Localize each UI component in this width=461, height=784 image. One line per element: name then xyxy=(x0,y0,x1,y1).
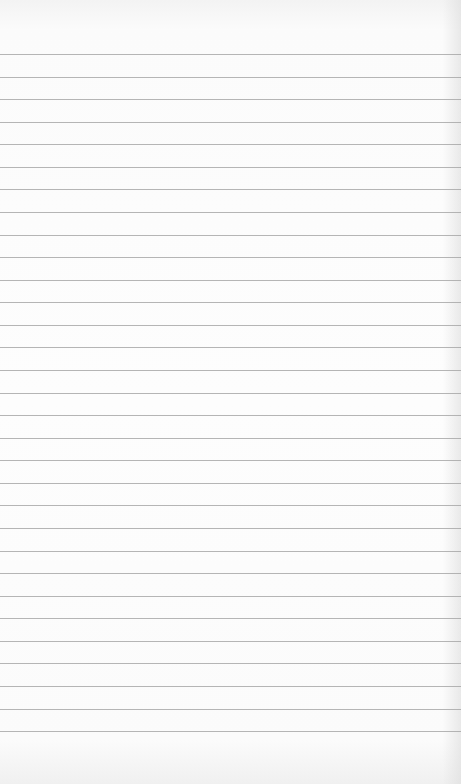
ruled-line xyxy=(0,347,461,348)
ruled-line xyxy=(0,528,461,529)
ruled-line xyxy=(0,99,461,100)
ruled-line xyxy=(0,302,461,303)
ruled-line xyxy=(0,393,461,394)
ruled-line xyxy=(0,212,461,213)
ruled-line xyxy=(0,731,461,732)
ruled-line xyxy=(0,167,461,168)
ruled-line xyxy=(0,641,461,642)
ruled-line xyxy=(0,505,461,506)
ruled-line xyxy=(0,663,461,664)
ruled-line xyxy=(0,144,461,145)
ruled-line xyxy=(0,483,461,484)
ruled-line xyxy=(0,460,461,461)
ruled-line xyxy=(0,54,461,55)
ruled-line xyxy=(0,686,461,687)
ruled-line xyxy=(0,257,461,258)
ruled-line xyxy=(0,122,461,123)
lined-paper-sheet xyxy=(0,0,461,784)
ruled-line xyxy=(0,709,461,710)
ruled-line xyxy=(0,415,461,416)
ruled-line xyxy=(0,551,461,552)
ruled-line xyxy=(0,370,461,371)
ruled-line xyxy=(0,573,461,574)
ruled-line xyxy=(0,438,461,439)
ruled-line xyxy=(0,325,461,326)
ruled-line xyxy=(0,189,461,190)
ruled-line xyxy=(0,280,461,281)
ruled-line xyxy=(0,618,461,619)
ruled-line xyxy=(0,235,461,236)
ruled-line xyxy=(0,77,461,78)
ruled-line xyxy=(0,596,461,597)
